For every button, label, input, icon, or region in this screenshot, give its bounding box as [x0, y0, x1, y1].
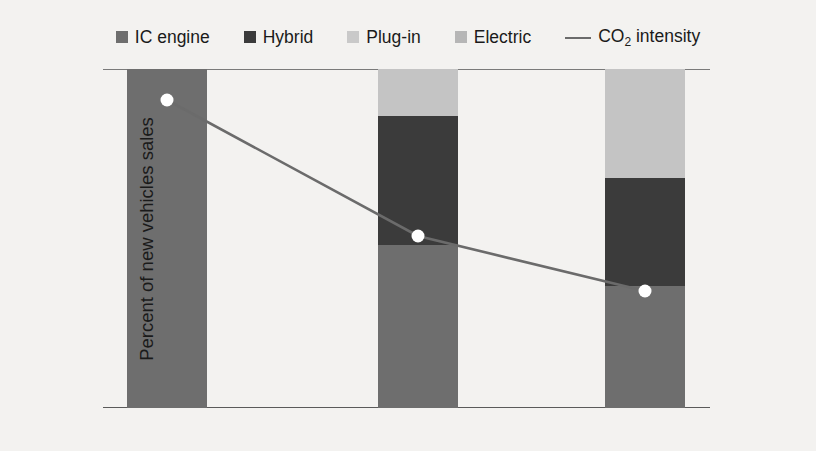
bar-2020[interactable] — [378, 69, 458, 408]
bar-segment-hybrid — [378, 116, 458, 245]
square-swatch-icon — [244, 31, 256, 43]
legend-label-plug-in: Plug-in — [366, 27, 420, 47]
legend-label-ic-engine: IC engine — [135, 27, 210, 47]
bar-segment-electric — [378, 69, 458, 116]
legend-label-hybrid: Hybrid — [263, 27, 314, 47]
bar-2030[interactable] — [605, 69, 685, 408]
legend-label-co2-intensity: CO2 intensity — [598, 26, 700, 48]
bar-segment-electric — [605, 69, 685, 177]
legend-item-electric[interactable]: Electric — [455, 27, 531, 47]
legend-item-plug-in[interactable]: Plug-in — [347, 27, 420, 47]
bar-segment-hybrid — [605, 178, 685, 286]
plot-area: 100% 80% 60% 40% 20% 0% 250 200 150 100 … — [103, 69, 710, 408]
square-swatch-icon — [455, 31, 467, 43]
co2-vehicle-sales-chart: IC engine Hybrid Plug-in Electric CO2 in… — [0, 0, 816, 451]
square-swatch-icon — [347, 31, 359, 43]
legend-item-hybrid[interactable]: Hybrid — [244, 27, 314, 47]
bar-segment-ic-engine — [605, 286, 685, 408]
line-marker-icon — [565, 37, 591, 39]
y-axis-left-title: Percent of new vehicles sales — [137, 99, 157, 379]
bar-segment-ic-engine — [378, 245, 458, 408]
square-swatch-icon — [116, 31, 128, 43]
legend-label-electric: Electric — [474, 27, 531, 47]
chart-legend: IC engine Hybrid Plug-in Electric CO2 in… — [0, 22, 816, 52]
legend-item-co2-intensity[interactable]: CO2 intensity — [565, 26, 700, 48]
legend-item-ic-engine[interactable]: IC engine — [116, 27, 210, 47]
